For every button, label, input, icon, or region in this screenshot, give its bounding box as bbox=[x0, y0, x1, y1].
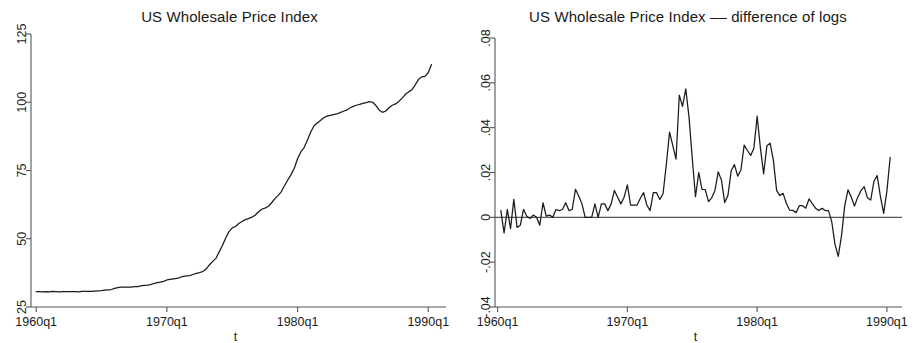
right-plot-svg: -.04-.020.02.04.06.081960q11970q11980q11… bbox=[459, 0, 917, 343]
y-tick-label: 50 bbox=[15, 232, 29, 246]
y-tick-label: .06 bbox=[479, 74, 493, 91]
data-series-line bbox=[36, 65, 431, 292]
y-tick-label: .02 bbox=[479, 164, 493, 181]
x-tick-label: 1970q1 bbox=[607, 315, 649, 329]
data-series-line bbox=[501, 89, 890, 256]
x-axis-title: t bbox=[694, 330, 698, 343]
x-tick-label: 1960q1 bbox=[15, 315, 57, 329]
y-tick-label: .08 bbox=[479, 29, 493, 46]
x-tick-label: 1990q1 bbox=[866, 315, 908, 329]
y-tick-label: 100 bbox=[15, 92, 29, 113]
y-tick-label: 75 bbox=[15, 164, 29, 178]
left-plot-svg: 2550751001251960q11970q11980q11990q1t bbox=[0, 0, 459, 343]
x-tick-label: 1980q1 bbox=[277, 315, 319, 329]
chart-panel-left: US Wholesale Price Index 255075100125196… bbox=[0, 0, 459, 343]
y-tick-label: 0 bbox=[479, 214, 493, 221]
y-tick-label: 25 bbox=[15, 300, 29, 314]
chart-panel-right: US Wholesale Price Index –– difference o… bbox=[459, 0, 917, 343]
figure-container: US Wholesale Price Index 255075100125196… bbox=[0, 0, 917, 343]
y-tick-label: 125 bbox=[15, 24, 29, 45]
y-tick-label: .04 bbox=[479, 119, 493, 136]
x-tick-label: 1990q1 bbox=[407, 315, 449, 329]
x-tick-label: 1970q1 bbox=[146, 315, 188, 329]
x-tick-label: 1960q1 bbox=[477, 315, 519, 329]
x-axis-title: t bbox=[234, 330, 238, 343]
y-tick-label: -.02 bbox=[479, 251, 493, 273]
x-tick-label: 1980q1 bbox=[736, 315, 778, 329]
